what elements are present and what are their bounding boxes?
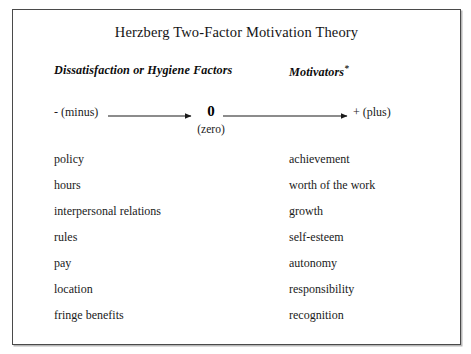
list-item: autonomy xyxy=(289,257,471,283)
list-item: fringe benefits xyxy=(54,309,269,335)
motivation-continuum-axis: - (minus) 0 (zero) + (plus) xyxy=(13,105,460,145)
slide-frame: Herzberg Two-Factor Motivation Theory Di… xyxy=(12,9,461,345)
axis-sublabel-zero: (zero) xyxy=(181,123,241,135)
list-item: location xyxy=(54,283,269,309)
list-item: achievement xyxy=(289,153,471,179)
list-item: self-esteem xyxy=(289,231,471,257)
list-item: responsibility xyxy=(289,283,471,309)
list-item: rules xyxy=(54,231,269,257)
list-item: interpersonal relations xyxy=(54,205,269,231)
list-item: pay xyxy=(54,257,269,283)
list-item: policy xyxy=(54,153,269,179)
column-header-hygiene-factors: Dissatisfaction or Hygiene Factors xyxy=(54,63,232,78)
axis-label-plus: + (plus) xyxy=(353,105,391,120)
axis-arrow-group xyxy=(13,105,471,135)
footnote-asterisk: * xyxy=(344,63,349,73)
column-header-motivators: Motivators* xyxy=(289,63,349,80)
axis-label-zero: 0 xyxy=(191,103,231,120)
hygiene-factors-list: policy hours interpersonal relations rul… xyxy=(54,153,269,335)
motivators-list: achievement worth of the work growth sel… xyxy=(289,153,471,335)
list-item: worth of the work xyxy=(289,179,471,205)
list-item: growth xyxy=(289,205,471,231)
column-header-motivators-label: Motivators xyxy=(289,65,344,79)
list-item: recognition xyxy=(289,309,471,335)
page-title: Herzberg Two-Factor Motivation Theory xyxy=(13,24,460,41)
list-item: hours xyxy=(54,179,269,205)
